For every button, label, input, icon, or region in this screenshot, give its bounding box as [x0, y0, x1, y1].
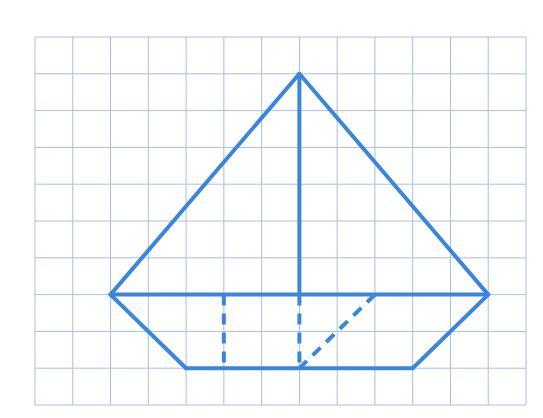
sailboat-grid-diagram [0, 0, 543, 418]
grid-paper [35, 37, 526, 405]
